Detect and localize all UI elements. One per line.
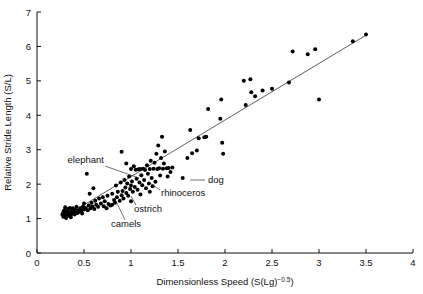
regression-line <box>62 34 368 218</box>
data-point <box>120 150 124 154</box>
annotation-label-dog: dog <box>208 174 224 185</box>
data-point <box>103 199 107 203</box>
data-point <box>114 184 118 188</box>
data-point <box>96 205 100 209</box>
data-point <box>158 174 162 178</box>
data-point <box>167 166 171 170</box>
y-tick-label: 5 <box>26 75 31 86</box>
data-point <box>163 149 167 153</box>
data-point <box>168 170 172 174</box>
chart-figure: 00.511.522.533.5401234567 elephantcamels… <box>0 0 423 294</box>
data-point <box>91 186 95 190</box>
data-point <box>124 161 128 165</box>
data-point <box>313 47 317 51</box>
data-point <box>170 166 174 170</box>
data-point <box>118 199 122 203</box>
y-tick-label: 6 <box>26 41 31 52</box>
data-point <box>152 167 156 171</box>
data-point <box>154 152 158 156</box>
data-point <box>253 94 257 98</box>
data-point <box>153 180 157 184</box>
data-point <box>162 161 166 165</box>
annotation-label-rhinoceros: rhinoceros <box>161 187 206 198</box>
y-tick-label: 2 <box>26 179 31 190</box>
data-point <box>204 135 208 139</box>
annotation-label-elephant: elephant <box>68 154 105 165</box>
data-point <box>93 199 97 203</box>
data-point <box>140 183 144 187</box>
data-point <box>242 79 246 83</box>
fit-line-segment <box>62 34 368 218</box>
data-point <box>130 179 134 183</box>
data-point <box>153 161 157 165</box>
data-point <box>125 181 129 185</box>
data-point <box>121 197 125 201</box>
data-point <box>116 190 120 194</box>
data-point <box>142 178 146 182</box>
data-point <box>197 136 201 140</box>
data-point <box>92 207 96 211</box>
data-point <box>270 87 274 91</box>
data-point <box>148 167 152 171</box>
x-tick-label: 2.5 <box>265 257 278 268</box>
x-tick-label: 0.5 <box>77 257 90 268</box>
data-point <box>69 215 73 219</box>
data-point <box>120 193 124 197</box>
data-point <box>221 152 225 156</box>
data-point <box>144 186 148 190</box>
data-point <box>156 144 160 148</box>
data-point <box>351 39 355 43</box>
data-point <box>106 194 110 198</box>
data-point <box>190 151 194 155</box>
x-tick-label: 1 <box>128 257 133 268</box>
data-point <box>364 32 368 36</box>
y-tick-label: 3 <box>26 144 31 155</box>
x-tick-label: 1.5 <box>171 257 184 268</box>
y-tick-label: 7 <box>26 7 31 18</box>
data-point <box>129 184 133 188</box>
data-point <box>248 77 252 81</box>
data-point <box>136 188 140 192</box>
data-point <box>287 81 291 85</box>
data-point <box>149 159 153 163</box>
x-tick-label: 0 <box>34 257 39 268</box>
data-point <box>150 176 154 180</box>
x-tick-label: 3.5 <box>359 257 372 268</box>
data-point <box>220 141 224 145</box>
annotation-label-camels: camels <box>111 218 141 229</box>
y-tick-label: 1 <box>26 213 31 224</box>
data-point <box>317 97 321 101</box>
data-point <box>146 172 150 176</box>
data-point <box>161 167 165 171</box>
y-tick-label: 0 <box>26 248 31 259</box>
data-point <box>306 52 310 56</box>
data-point <box>122 178 126 182</box>
data-point <box>115 195 119 199</box>
data-point <box>244 103 248 107</box>
data-point <box>119 180 123 184</box>
data-point <box>105 206 109 210</box>
data-point <box>101 195 105 199</box>
annotation-label-ostrich: ostrich <box>134 203 162 214</box>
data-point <box>110 192 114 196</box>
axis-titles: Dimensionless Speed (S(Lg)−0.5)Relative … <box>2 74 294 287</box>
data-point <box>85 172 89 176</box>
data-point <box>132 164 136 168</box>
data-point <box>88 192 92 196</box>
data-point <box>188 128 192 132</box>
data-point <box>131 190 135 194</box>
y-tick-label: 4 <box>26 110 31 121</box>
data-point <box>206 107 210 111</box>
data-point <box>148 190 152 194</box>
data-point <box>90 201 94 205</box>
data-point <box>166 175 170 179</box>
data-point <box>249 90 253 94</box>
data-point <box>74 205 78 209</box>
data-point <box>123 186 127 190</box>
x-tick-label: 2 <box>222 257 227 268</box>
data-point <box>219 97 223 101</box>
data-point <box>185 156 189 160</box>
data-point <box>80 211 84 215</box>
x-tick-label: 3 <box>316 257 321 268</box>
data-point <box>195 148 199 152</box>
